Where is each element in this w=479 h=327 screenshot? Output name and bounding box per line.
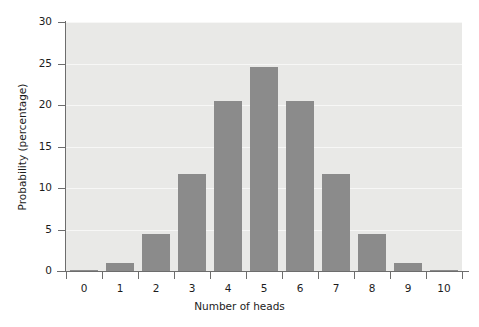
x-tick [66, 272, 67, 279]
bar [250, 67, 279, 271]
x-tick-label: 3 [177, 283, 207, 294]
y-tick [58, 105, 65, 106]
x-tick-label: 1 [105, 283, 135, 294]
x-tick [174, 272, 175, 279]
bar [178, 174, 207, 271]
y-tick [58, 22, 65, 23]
x-tick [138, 272, 139, 279]
y-tick [58, 271, 65, 272]
x-axis-title: Number of heads [0, 300, 479, 312]
x-tick-label: 9 [393, 283, 423, 294]
bar [394, 263, 423, 271]
x-tick [354, 272, 355, 279]
x-tick-label: 10 [429, 283, 459, 294]
bar [106, 263, 135, 271]
x-axis-line [57, 271, 469, 272]
x-tick [462, 272, 463, 279]
x-tick [210, 272, 211, 279]
x-tick-label: 6 [285, 283, 315, 294]
y-tick [58, 147, 65, 148]
x-tick [102, 272, 103, 279]
bar [286, 101, 315, 271]
bar-series [66, 22, 462, 271]
x-tick-label: 4 [213, 283, 243, 294]
bar [322, 174, 351, 271]
x-tick-label: 2 [141, 283, 171, 294]
x-tick-label: 7 [321, 283, 351, 294]
y-tick [58, 64, 65, 65]
x-tick [318, 272, 319, 279]
x-tick [390, 272, 391, 279]
x-tick [282, 272, 283, 279]
y-axis-title: Probability (percentage) [14, 0, 30, 293]
bar [358, 234, 387, 271]
x-tick-label: 8 [357, 283, 387, 294]
y-tick [58, 188, 65, 189]
bar-chart: 051015202530 012345678910 Probability (p… [0, 0, 479, 327]
y-tick [58, 230, 65, 231]
bar [142, 234, 171, 271]
x-tick [246, 272, 247, 279]
y-axis-line [65, 21, 66, 272]
plot-area [66, 22, 462, 271]
x-tick [426, 272, 427, 279]
x-tick-label: 5 [249, 283, 279, 294]
bar [214, 101, 243, 271]
y-axis-title-text: Probability (percentage) [16, 83, 28, 210]
x-tick-label: 0 [69, 283, 99, 294]
